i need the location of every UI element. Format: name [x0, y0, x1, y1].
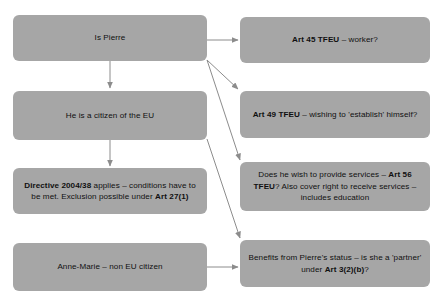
node-citizen-eu[interactable]: He is a citizen of the EU [13, 91, 207, 140]
edge-is-pierre-to-art49 [207, 60, 238, 89]
edge-is-pierre-to-art56 [207, 60, 240, 160]
node-art-45-tfeu[interactable]: Art 45 TFEU – worker? [240, 17, 430, 63]
node-anne-marie[interactable]: Anne-Marie – non EU citizen [13, 243, 207, 291]
node-art-45-tfeu-label: Art 45 TFEU – worker? [247, 34, 423, 45]
node-art-49-tfeu-label: Art 49 TFEU – wishing to 'establish' him… [247, 109, 423, 120]
flowchart-canvas: Is Pierre He is a citizen of the EU Dire… [0, 0, 446, 299]
node-directive-2004-38-label: Directive 2004/38 applies – conditions h… [20, 180, 200, 203]
node-art-56-tfeu-label: Does he wish to provide services – Art 5… [247, 169, 423, 203]
node-is-pierre-label: Is Pierre [20, 32, 200, 43]
node-art-56-tfeu[interactable]: Does he wish to provide services – Art 5… [240, 162, 430, 211]
edge-citizen-eu-to-benefits [207, 139, 240, 238]
node-citizen-eu-label: He is a citizen of the EU [20, 110, 200, 121]
node-directive-2004-38[interactable]: Directive 2004/38 applies – conditions h… [13, 168, 207, 214]
node-is-pierre[interactable]: Is Pierre [13, 15, 207, 61]
node-art-49-tfeu[interactable]: Art 49 TFEU – wishing to 'establish' him… [240, 91, 430, 138]
node-anne-marie-label: Anne-Marie – non EU citizen [20, 261, 200, 272]
node-benefits-partner-label: Benefits from Pierre's status – is she a… [247, 252, 423, 275]
node-benefits-partner[interactable]: Benefits from Pierre's status – is she a… [240, 240, 430, 287]
